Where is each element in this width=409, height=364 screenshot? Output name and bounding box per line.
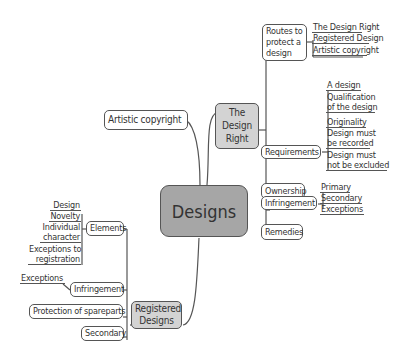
node-routes-to-protect[interactable]: Routes to protect a design (262, 24, 307, 61)
node-infringement-registered[interactable]: Infringement (70, 282, 124, 297)
leaf-secondary[interactable]: Secondary (320, 193, 362, 204)
label-line: Designs (135, 315, 178, 327)
leaf-line: Individual (41, 222, 80, 232)
node-infringement-design-right[interactable]: Infringement (261, 196, 317, 210)
label-line: protect a (266, 37, 303, 48)
leaf-design-must-be-recorded[interactable]: Design must be recorded (326, 128, 370, 149)
leaf-novelty[interactable]: Novelty (49, 211, 81, 222)
mind-map-canvas: Designs Artistic copyright The Design Ri… (0, 0, 409, 364)
label-line: Right (219, 132, 255, 145)
node-artistic-copyright[interactable]: Artistic copyright (104, 110, 188, 130)
label-line: Registered (135, 303, 178, 315)
leaf-line: Qualification (327, 92, 374, 102)
leaf-line: Design must (327, 150, 386, 160)
leaf-artistic-copyright[interactable]: Artistic copyright (312, 45, 367, 56)
leaf-exceptions[interactable]: Exceptions (320, 204, 364, 215)
leaf-individual-character[interactable]: Individual character (40, 222, 81, 243)
node-remedies[interactable]: Remedies (261, 224, 303, 240)
leaf-design[interactable]: Design (50, 200, 81, 211)
leaf-primary[interactable]: Primary (320, 182, 350, 193)
leaf-exceptions-registered[interactable]: Exceptions (20, 273, 65, 284)
root-node-designs[interactable]: Designs (160, 185, 248, 237)
leaf-exceptions-to-registration[interactable]: Exceptions to registration (28, 244, 81, 265)
node-protection-of-spareparts[interactable]: Protection of spareparts (29, 304, 123, 319)
node-the-design-right[interactable]: The Design Right (215, 103, 259, 149)
leaf-line: registration (29, 254, 80, 264)
leaf-line: character (41, 232, 80, 242)
label-line: The (219, 106, 255, 119)
node-secondary-registered[interactable]: Secondary (81, 326, 124, 341)
leaf-line: Design must (327, 128, 369, 138)
leaf-registered-design[interactable]: Registered Design (312, 33, 369, 44)
node-requirements[interactable]: Requirements (261, 145, 321, 159)
label-line: Routes to (266, 26, 303, 37)
node-registered-designs[interactable]: Registered Designs (131, 301, 182, 329)
leaf-design-must-not-be-excluded[interactable]: Design must not be excluded (326, 150, 387, 171)
node-elements[interactable]: Elements (86, 221, 124, 236)
leaf-a-design[interactable]: A design (326, 80, 361, 91)
leaf-line: of the design (327, 102, 374, 112)
leaf-qualification-of-design[interactable]: Qualification of the design (326, 92, 375, 113)
label-line: design (266, 48, 303, 59)
leaf-line: be recorded (327, 138, 369, 148)
leaf-line: not be excluded (327, 160, 386, 170)
leaf-the-design-right[interactable]: The Design Right (312, 22, 362, 33)
leaf-originality[interactable]: Originality (326, 117, 366, 128)
label-line: Design (219, 119, 255, 132)
leaf-line: Exceptions to (29, 244, 80, 254)
